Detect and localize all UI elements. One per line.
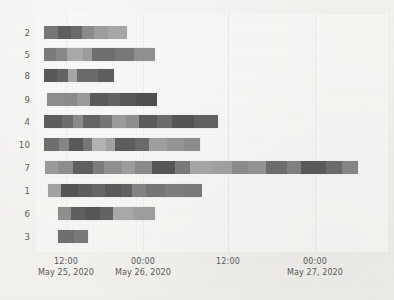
gantt-segment[interactable] (74, 230, 88, 243)
gantt-bar-2[interactable] (44, 26, 127, 39)
gantt-segment[interactable] (58, 161, 73, 174)
gantt-segment[interactable] (121, 184, 132, 197)
gantt-bar-10[interactable] (44, 138, 200, 151)
gantt-bar-1[interactable] (48, 184, 202, 197)
gantt-segment[interactable] (232, 161, 248, 174)
gantt-segment[interactable] (122, 161, 135, 174)
gantt-segment[interactable] (135, 161, 152, 174)
gantt-segment[interactable] (73, 161, 93, 174)
gantt-segment[interactable] (58, 230, 74, 243)
gantt-segment[interactable] (68, 69, 77, 82)
x-tick-label-2: 12:00 (216, 256, 240, 267)
gantt-segment[interactable] (71, 26, 82, 39)
gantt-segment[interactable] (342, 161, 358, 174)
gantt-segment[interactable] (90, 93, 108, 106)
gantt-segment[interactable] (59, 138, 69, 151)
gantt-segment[interactable] (184, 138, 200, 151)
gantt-bar-3[interactable] (58, 230, 88, 243)
gantt-segment[interactable] (58, 26, 71, 39)
gantt-segment[interactable] (92, 48, 115, 61)
gantt-segment[interactable] (78, 184, 92, 197)
gantt-segment[interactable] (44, 26, 58, 39)
gantt-segment[interactable] (112, 115, 126, 128)
gantt-segment[interactable] (71, 207, 85, 220)
x-tick-time: 12:00 (38, 256, 94, 267)
gantt-segment[interactable] (104, 161, 122, 174)
gantt-segment[interactable] (146, 184, 165, 197)
gantt-segment[interactable] (248, 161, 266, 174)
gantt-segment[interactable] (115, 138, 135, 151)
gantt-segment[interactable] (120, 93, 136, 106)
gantt-bar-5[interactable] (44, 48, 155, 61)
gantt-segment[interactable] (132, 184, 146, 197)
gantt-segment[interactable] (152, 161, 175, 174)
gantt-segment[interactable] (172, 115, 194, 128)
gantt-segment[interactable] (157, 115, 172, 128)
gantt-segment[interactable] (167, 138, 184, 151)
x-tick-time: 12:00 (216, 256, 240, 267)
gantt-segment[interactable] (301, 161, 326, 174)
gantt-segment[interactable] (67, 48, 83, 61)
gantt-segment[interactable] (134, 48, 155, 61)
gantt-segment[interactable] (106, 138, 115, 151)
gantt-segment[interactable] (105, 184, 121, 197)
gantt-segment[interactable] (47, 93, 64, 106)
gantt-segment[interactable] (77, 69, 98, 82)
gantt-segment[interactable] (175, 161, 190, 174)
gantt-segment[interactable] (115, 48, 134, 61)
gantt-bar-4[interactable] (44, 115, 218, 128)
gantt-segment[interactable] (212, 161, 232, 174)
gantt-segment[interactable] (64, 93, 77, 106)
gantt-segment[interactable] (190, 161, 212, 174)
gantt-segment[interactable] (287, 161, 301, 174)
gantt-segment[interactable] (85, 207, 100, 220)
gantt-segment[interactable] (113, 207, 133, 220)
gantt-segment[interactable] (183, 184, 202, 197)
y-tick-label-2: 2 (4, 28, 30, 38)
gantt-segment[interactable] (69, 138, 83, 151)
gantt-bar-7[interactable] (45, 161, 358, 174)
gantt-segment[interactable] (165, 184, 183, 197)
gantt-segment[interactable] (82, 26, 94, 39)
gantt-segment[interactable] (44, 69, 57, 82)
gantt-segment[interactable] (44, 48, 56, 61)
gantt-segment[interactable] (135, 138, 149, 151)
gantt-segment[interactable] (94, 26, 108, 39)
gantt-segment[interactable] (58, 207, 71, 220)
gantt-segment[interactable] (73, 115, 83, 128)
gantt-segment[interactable] (326, 161, 342, 174)
gantt-segment[interactable] (98, 69, 114, 82)
gantt-segment[interactable] (83, 48, 92, 61)
gantt-segment[interactable] (93, 161, 104, 174)
gantt-segment[interactable] (56, 48, 67, 61)
gantt-segment[interactable] (136, 93, 157, 106)
gantt-bar-9[interactable] (47, 93, 157, 106)
gantt-segment[interactable] (133, 207, 155, 220)
gantt-segment[interactable] (57, 69, 68, 82)
gantt-segment[interactable] (44, 138, 59, 151)
gantt-segment[interactable] (149, 138, 167, 151)
gantt-segment[interactable] (83, 115, 100, 128)
gantt-segment[interactable] (139, 115, 157, 128)
gantt-segment[interactable] (100, 115, 112, 128)
gantt-segment[interactable] (108, 26, 127, 39)
gantt-bar-8[interactable] (44, 69, 114, 82)
gantt-segment[interactable] (126, 115, 139, 128)
gantt-segment[interactable] (77, 93, 90, 106)
x-tick-date: May 25, 2020 (38, 267, 94, 278)
y-tick-label-10: 10 (4, 140, 30, 150)
gantt-segment[interactable] (61, 184, 78, 197)
gantt-segment[interactable] (100, 207, 113, 220)
gantt-segment[interactable] (194, 115, 218, 128)
gantt-segment[interactable] (108, 93, 120, 106)
gantt-segment[interactable] (92, 184, 105, 197)
gantt-segment[interactable] (92, 138, 106, 151)
gantt-segment[interactable] (45, 161, 58, 174)
gantt-segment[interactable] (83, 138, 92, 151)
gantt-segment[interactable] (44, 115, 62, 128)
gantt-segment[interactable] (266, 161, 287, 174)
gantt-segment[interactable] (62, 115, 73, 128)
x-tick-time: 00:00 (115, 256, 171, 267)
gantt-segment[interactable] (48, 184, 61, 197)
gantt-bar-6[interactable] (58, 207, 155, 220)
